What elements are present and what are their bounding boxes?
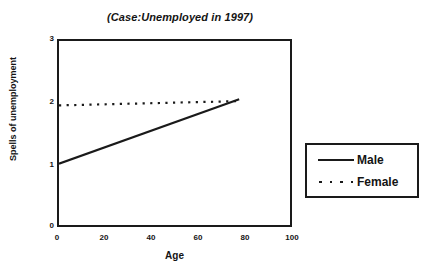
x-tick-label-80: 80 (232, 233, 258, 242)
x-tick-label-20: 20 (91, 233, 117, 242)
chart-legend: Male Female (305, 143, 419, 198)
legend-swatch-dotted-line-icon (315, 177, 357, 187)
chart-title: (Case:Unemployed in 1997) (0, 11, 360, 23)
y-tick-label-2: 2 (38, 97, 54, 106)
y-tick-label-0: 0 (38, 221, 54, 230)
legend-swatch-solid-line-icon (315, 155, 357, 165)
x-axis-title: Age (57, 250, 292, 261)
plot-series-svg (59, 41, 290, 225)
series-line-female (59, 101, 239, 105)
legend-item-male: Male (315, 152, 384, 168)
y-tick-label-3: 3 (38, 34, 54, 43)
chart-figure: (Case:Unemployed in 1997) Spells of unem… (0, 0, 432, 274)
y-axis-title: Spells of unemployment (8, 29, 18, 189)
series-line-male (59, 99, 239, 163)
x-tick-label-0: 0 (44, 233, 70, 242)
x-tick-label-40: 40 (138, 233, 164, 242)
x-tick-label-100: 100 (279, 233, 305, 242)
legend-label-female: Female (357, 176, 398, 188)
legend-item-female: Female (315, 174, 398, 190)
legend-label-male: Male (357, 154, 384, 166)
y-tick-label-1: 1 (38, 160, 54, 169)
x-tick-label-60: 60 (185, 233, 211, 242)
plot-area (57, 39, 292, 227)
